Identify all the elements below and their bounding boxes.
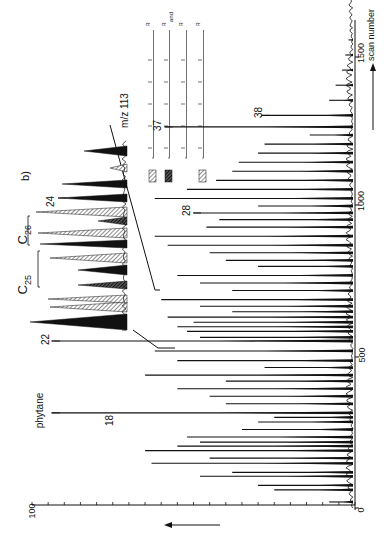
panel-label: b) (19, 171, 31, 181)
label-peak-28: 28 (181, 205, 192, 216)
up-arrow-icon (164, 522, 220, 528)
y-tick-label-100: 100 (27, 503, 37, 518)
x-axis (355, 20, 359, 510)
c26-subscript: 26 (23, 225, 33, 235)
structure-legend: RRRR (145, 22, 206, 182)
label-c25: C25 (15, 275, 33, 294)
tick-label-0: 0 (356, 507, 366, 512)
svg-text:R: R (161, 22, 167, 26)
label-peak-38: 38 (253, 107, 264, 118)
svg-text:R: R (195, 22, 201, 26)
x-axis-label: scan number (366, 9, 376, 61)
legend-and-text: and (168, 12, 174, 22)
tick-label-1500: 1500 (356, 43, 366, 63)
c25-subscript: 25 (23, 275, 33, 285)
inset-mz113 (28, 125, 175, 348)
tick-label-500: 500 (357, 347, 367, 362)
label-peak-22: 22 (40, 334, 51, 345)
chromatogram-trace (51, 0, 353, 508)
c25-text: C (15, 285, 30, 294)
label-peak-37: 37 (152, 120, 163, 131)
y-axis (32, 502, 355, 505)
right-arrow-icon (370, 63, 376, 130)
label-phytane: phytane (34, 393, 45, 429)
c26-text: C (15, 235, 30, 244)
svg-text:R: R (178, 22, 184, 26)
label-peak-18: 18 (104, 415, 115, 426)
tick-label-1000: 1000 (356, 191, 366, 211)
label-peak-24: 24 (45, 196, 56, 207)
chromatogram-figure: RRRR (0, 0, 384, 539)
label-c26: C26 (15, 225, 33, 244)
label-mz113: m/z 113 (119, 93, 130, 128)
svg-text:R: R (145, 22, 151, 26)
